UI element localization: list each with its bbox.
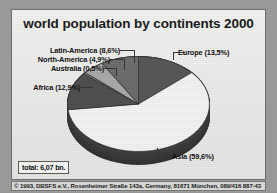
total-badge: total: 6,07 bn. <box>18 161 69 174</box>
leader-africa <box>79 87 93 88</box>
scan-frame: world population by continents 2000 <box>0 0 277 193</box>
chart-panel: world population by continents 2000 <box>11 9 266 180</box>
leader-europe <box>173 52 185 60</box>
slice-label-africa: Africa (12,9%) <box>12 83 80 92</box>
leader-australia <box>103 68 117 76</box>
slice-label-latin-america: Latin-America (8,6%) <box>12 46 120 55</box>
slice-label-asia: Asia (59,6%) <box>172 152 214 161</box>
slice-label-australia: Australia (0,5%) <box>12 64 104 73</box>
slice-label-north-america: North-America (4,9%) <box>12 55 110 64</box>
page-title: world population by continents 2000 <box>12 16 265 31</box>
copyright-bar: © 1993, DBSFS e.V., Rosenheimer Straße 1… <box>11 181 266 191</box>
leader-asia <box>157 148 171 156</box>
slice-label-europe: Europe (13,5%) <box>178 48 229 57</box>
copyright-text: © 1993, DBSFS e.V., Rosenheimer Straße 1… <box>14 182 261 190</box>
